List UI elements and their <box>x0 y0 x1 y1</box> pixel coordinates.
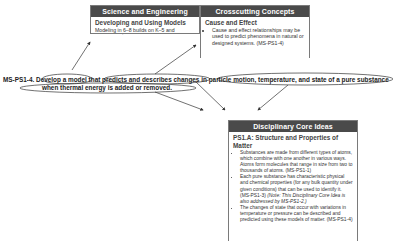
sep-body: Developing and Using Models Modeling in … <box>91 17 199 35</box>
dci-bullet-3: The changes of state that occur with var… <box>240 205 353 223</box>
arrow-to-cc <box>155 45 196 74</box>
pe-model-phrase: Develop a model <box>36 76 87 83</box>
arrow-particle-to-dci <box>258 85 288 110</box>
arrow-thermal-to-dci <box>155 92 203 110</box>
pe-code: MS-PS1-4. <box>3 76 34 83</box>
dci-bullet-list: Substances are made from different types… <box>233 150 353 223</box>
performance-expectation-line2: when thermal energy is added or removed. <box>42 84 172 91</box>
dci-bullet-2: Each pure substance has characteristic p… <box>240 174 353 204</box>
dci-bullet-1: Substances are made from different types… <box>240 150 353 174</box>
pe-particle-phrase: particle motion, temperature, and state … <box>209 76 389 83</box>
disciplinary-core-ideas-box: Disciplinary Core Ideas PS1.A: Structure… <box>228 120 358 241</box>
arrow-predicts-to-dci <box>195 81 225 110</box>
performance-expectation-line1: MS-PS1-4. Develop a model that predicts … <box>3 76 389 83</box>
arrow-to-sep <box>72 42 90 70</box>
pe-predict-phrase: predicts and describes changes <box>102 76 199 83</box>
dci-body: PS1.A: Structure and Properties of Matte… <box>229 132 357 225</box>
dci-subheading: PS1.A: Structure and Properties of Matte… <box>233 134 353 150</box>
sep-body-text: Modeling in 6–8 builds on K–5 and progre… <box>95 27 195 35</box>
cc-subheading: Cause and Effect <box>205 19 305 27</box>
cc-body: Cause and Effect Cause and effect relati… <box>201 17 309 48</box>
crosscutting-concepts-box: Crosscutting Concepts Cause and Effect C… <box>200 5 310 58</box>
cc-bullet-list: Cause and effect relationships may be us… <box>205 27 305 46</box>
science-engineering-practices-box: Science and Engineering Practices Develo… <box>90 5 200 34</box>
sep-header: Science and Engineering Practices <box>91 6 199 17</box>
cc-header: Crosscutting Concepts <box>201 6 309 17</box>
cc-bullet: Cause and effect relationships may be us… <box>212 27 305 46</box>
pe-connector-1: that <box>87 76 102 83</box>
pe-connector-2: in <box>199 76 208 83</box>
sep-subheading: Developing and Using Models <box>95 19 195 27</box>
dci-header: Disciplinary Core Ideas <box>229 121 357 132</box>
